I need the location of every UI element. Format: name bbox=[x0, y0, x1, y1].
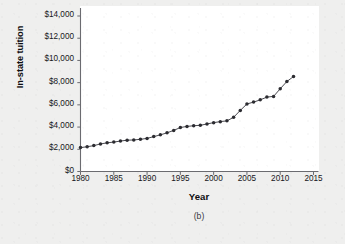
data-point bbox=[105, 141, 109, 145]
x-tick-label: 2015 bbox=[294, 175, 334, 186]
data-point bbox=[179, 126, 183, 129]
data-point bbox=[232, 116, 236, 120]
data-point bbox=[292, 75, 296, 79]
y-tick-label-text: $4,000 bbox=[18, 122, 74, 130]
data-point bbox=[139, 138, 143, 142]
data-point bbox=[85, 145, 89, 149]
data-point bbox=[152, 135, 156, 139]
data-point bbox=[285, 80, 289, 84]
data-point bbox=[185, 125, 189, 129]
y-tick-label: $10,000 bbox=[18, 55, 74, 65]
figure-container: In-state tuition Year (b) $0$2,000$4,000… bbox=[0, 0, 345, 244]
data-point bbox=[92, 144, 96, 148]
data-point bbox=[258, 98, 262, 102]
y-tick-label-text: $0 bbox=[18, 167, 74, 175]
y-tick-label-text: $14,000 bbox=[18, 11, 74, 19]
y-tick-label: $6,000 bbox=[18, 100, 74, 110]
data-point bbox=[278, 87, 282, 91]
y-tick-label-text: $12,000 bbox=[18, 33, 74, 41]
data-point bbox=[265, 95, 269, 99]
data-point bbox=[239, 109, 243, 113]
data-point bbox=[192, 124, 196, 128]
data-point bbox=[252, 100, 256, 104]
data-point bbox=[172, 129, 176, 133]
y-tick-label: $2,000 bbox=[18, 144, 74, 154]
data-point bbox=[79, 146, 83, 150]
data-point bbox=[272, 95, 276, 99]
data-point bbox=[119, 139, 123, 143]
y-tick-label: $14,000 bbox=[18, 11, 74, 21]
data-point-group bbox=[79, 75, 296, 150]
x-tick-label-text: 2015 bbox=[294, 175, 334, 183]
y-tick-label: $12,000 bbox=[18, 33, 74, 43]
data-point bbox=[225, 119, 229, 123]
data-point bbox=[165, 131, 169, 135]
figure-caption: (b) bbox=[80, 211, 318, 221]
data-series-line bbox=[81, 77, 294, 148]
x-axis-label: Year bbox=[80, 191, 318, 202]
y-tick-label-text: $2,000 bbox=[18, 144, 74, 152]
y-tick-label-text: $10,000 bbox=[18, 55, 74, 63]
data-point bbox=[132, 138, 136, 142]
data-point bbox=[219, 120, 223, 124]
data-point bbox=[245, 102, 249, 106]
data-point bbox=[212, 121, 216, 125]
y-tick-label: $8,000 bbox=[18, 78, 74, 88]
data-point bbox=[125, 138, 129, 142]
data-point bbox=[145, 137, 149, 141]
data-point bbox=[112, 140, 116, 144]
data-point bbox=[199, 124, 203, 128]
y-tick-label: $4,000 bbox=[18, 122, 74, 132]
data-point bbox=[159, 133, 163, 137]
y-tick-label-text: $8,000 bbox=[18, 78, 74, 86]
data-point bbox=[205, 122, 209, 126]
data-point bbox=[99, 142, 103, 146]
y-tick-label-text: $6,000 bbox=[18, 100, 74, 108]
